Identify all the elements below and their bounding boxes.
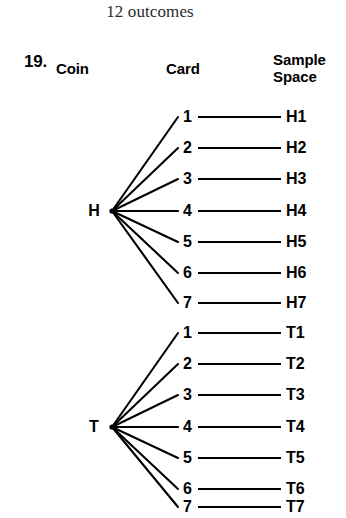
card-label: 4 bbox=[183, 419, 197, 435]
outcome-label: H2 bbox=[286, 140, 306, 156]
card-label: 1 bbox=[183, 325, 197, 341]
branch-line bbox=[112, 117, 178, 211]
branch-line bbox=[112, 211, 178, 273]
outcome-label: H1 bbox=[286, 109, 306, 125]
card-label: 3 bbox=[183, 387, 197, 403]
coin-node-label-t: T bbox=[84, 419, 104, 435]
tree-branches-svg bbox=[0, 0, 346, 518]
card-label: 4 bbox=[183, 203, 197, 219]
outcome-label: T6 bbox=[286, 481, 305, 497]
branch-line bbox=[112, 211, 178, 303]
card-label: 5 bbox=[183, 450, 197, 466]
outcome-label: T2 bbox=[286, 356, 305, 372]
card-label: 5 bbox=[183, 234, 197, 250]
branch-line bbox=[112, 179, 178, 211]
tree-diagram-page: 12 outcomes 19. Coin Card Sample Space H… bbox=[0, 0, 346, 518]
outcome-label: T3 bbox=[286, 387, 305, 403]
branch-line bbox=[112, 395, 178, 427]
branch-line bbox=[112, 333, 178, 427]
outcome-label: T7 bbox=[286, 499, 305, 515]
outcome-label: H6 bbox=[286, 265, 306, 281]
card-label: 6 bbox=[183, 265, 197, 281]
outcome-label: H5 bbox=[286, 234, 306, 250]
outcome-label: H3 bbox=[286, 171, 306, 187]
branch-vertex-dot bbox=[109, 424, 114, 429]
outcome-label: T4 bbox=[286, 419, 305, 435]
branch-line bbox=[112, 364, 178, 427]
outcome-label: H7 bbox=[286, 295, 306, 311]
card-label: 7 bbox=[183, 295, 197, 311]
branch-vertex-dot bbox=[109, 208, 114, 213]
card-label: 2 bbox=[183, 140, 197, 156]
coin-node-label-h: H bbox=[84, 203, 104, 219]
outcome-label: H4 bbox=[286, 203, 306, 219]
branch-line bbox=[112, 427, 178, 489]
card-label: 6 bbox=[183, 481, 197, 497]
branch-line bbox=[112, 148, 178, 211]
card-label: 2 bbox=[183, 356, 197, 372]
branch-line bbox=[112, 427, 178, 507]
outcome-label: T5 bbox=[286, 450, 305, 466]
outcome-label: T1 bbox=[286, 325, 305, 341]
card-label: 3 bbox=[183, 171, 197, 187]
card-label: 7 bbox=[183, 499, 197, 515]
card-label: 1 bbox=[183, 109, 197, 125]
branch-line bbox=[112, 427, 178, 458]
